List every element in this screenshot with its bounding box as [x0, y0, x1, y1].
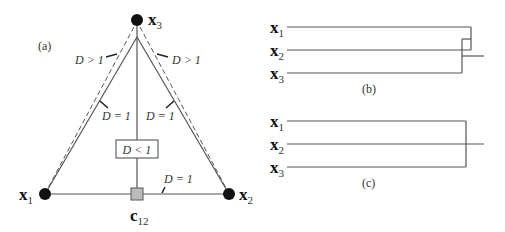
center-box-label: D < 1: [122, 143, 152, 157]
label-base: D = 1: [163, 172, 193, 186]
point-c12-square: [131, 188, 143, 200]
panel-b-dendrogram: x1 x2 x3 (b): [270, 18, 484, 96]
point-x1-dot: [39, 188, 51, 200]
leaf-x2-label: x2: [270, 41, 284, 62]
label-x1: x1: [19, 185, 33, 206]
label-right-inner: D = 1: [145, 109, 175, 123]
point-x2-dot: [223, 188, 235, 200]
tick-left-inner: [100, 101, 108, 108]
edge-x3-x1-dashed: [48, 27, 134, 188]
figure: (a) D < 1 D > 1 D > 1 D = 1 D = 1 D = 1: [0, 0, 505, 232]
label-c12: c12: [130, 206, 149, 227]
label-left-outer: D > 1: [74, 53, 104, 67]
tick-base: [162, 187, 165, 193]
panel-b-label: (b): [362, 82, 376, 96]
point-x3-dot: [131, 14, 143, 26]
panel-a: (a) D < 1 D > 1 D > 1 D = 1 D = 1 D = 1: [19, 10, 253, 227]
panel-c-dendrogram: x1 x2 x3 (c): [270, 112, 484, 190]
label-right-outer: D > 1: [171, 53, 201, 67]
leaf-x3-label: x3: [270, 64, 285, 85]
leaf-x3-label: x3: [270, 158, 285, 179]
leaf-x2-label: x2: [270, 135, 284, 156]
leaf-x1-label: x1: [270, 18, 284, 39]
edge-x3-x2-dashed: [140, 27, 226, 188]
tick-right-inner: [166, 101, 174, 108]
label-x2: x2: [239, 185, 253, 206]
label-x3: x3: [148, 10, 163, 31]
panel-c-label: (c): [362, 176, 375, 190]
panel-a-label: (a): [38, 39, 51, 53]
leaf-x1-label: x1: [270, 112, 284, 133]
tick-left-outer: [106, 54, 117, 57]
label-left-inner: D = 1: [101, 109, 131, 123]
tick-right-outer: [157, 54, 168, 57]
